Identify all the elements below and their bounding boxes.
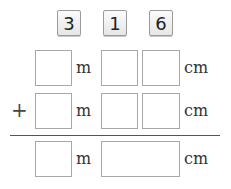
- centimeters-sum-box[interactable]: [101, 141, 180, 177]
- centimeters-unit-label: cm: [184, 60, 208, 76]
- meters-sum-box[interactable]: [35, 141, 72, 177]
- cm-tens-answer-box[interactable]: [101, 93, 138, 129]
- centimeters-unit-label: cm: [184, 151, 208, 167]
- meters-unit-label: m: [76, 151, 91, 167]
- sum-divider-line: [10, 135, 220, 136]
- cm-ones-answer-box[interactable]: [142, 93, 180, 129]
- meters-unit-label: m: [76, 60, 91, 76]
- meters-answer-box[interactable]: [35, 50, 72, 86]
- centimeters-unit-label: cm: [184, 103, 208, 119]
- cm-ones-answer-box[interactable]: [142, 50, 180, 86]
- meters-answer-box[interactable]: [35, 93, 72, 129]
- digit-tile-1[interactable]: 1: [103, 10, 127, 36]
- meters-unit-label: m: [76, 103, 91, 119]
- digit-tile-6[interactable]: 6: [149, 10, 173, 36]
- digit-tile-3[interactable]: 3: [57, 10, 81, 36]
- cm-tens-answer-box[interactable]: [101, 50, 138, 86]
- plus-sign: +: [11, 100, 28, 120]
